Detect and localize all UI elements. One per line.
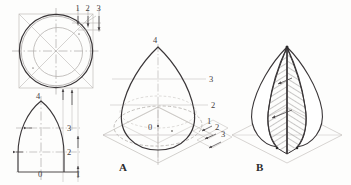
callout-label-2: 2	[86, 3, 90, 13]
plan-construction-point-1	[78, 33, 80, 35]
figa-callout-label-3: 3	[221, 129, 225, 139]
callout-label-1: 1	[76, 3, 80, 13]
figa-callout-label-2: 2	[215, 122, 219, 132]
figa-origin-point	[157, 125, 159, 127]
elevation-label-0: 0	[38, 169, 42, 179]
figa-label-3: 3	[209, 74, 213, 84]
callout-label-3: 3	[97, 3, 101, 13]
elevation-label-1: 1	[76, 169, 80, 179]
figa-caption: A	[119, 161, 127, 173]
figa-label-0: 0	[148, 122, 152, 132]
figb-base-point-right	[296, 147, 299, 150]
plan-construction-point-2	[32, 67, 34, 69]
figa-callout-label-1: 1	[207, 116, 211, 126]
drawing-sheet: 1 2 3 4 3 2 0 1	[0, 0, 351, 185]
elevation-label-3: 3	[67, 123, 71, 133]
elevation-label-2: 2	[67, 147, 71, 157]
figa-label-2: 2	[211, 100, 215, 110]
technical-drawing-canvas: 1 2 3 4 3 2 0 1	[0, 0, 351, 185]
figb-apex-point	[286, 46, 289, 49]
figa-construction-point	[171, 130, 173, 132]
figb-caption: B	[256, 161, 264, 173]
figb-base-point-left	[276, 147, 279, 150]
